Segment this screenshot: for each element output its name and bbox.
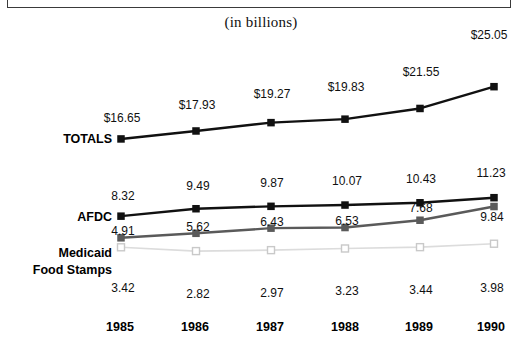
x-axis-label-1989: 1989: [405, 320, 433, 334]
data-point-marker: [341, 115, 349, 123]
x-axis-label-1988: 1988: [331, 320, 359, 334]
data-point-marker: [491, 240, 498, 247]
data-point-marker: [192, 205, 200, 213]
value-label-afdc-1990: 11.23: [476, 166, 505, 180]
value-label-food-stamps-1987: 2.97: [260, 286, 283, 300]
value-label-totals-1989: $21.55: [403, 65, 440, 79]
value-label-afdc-1987: 9.87: [260, 176, 283, 190]
value-label-totals-1986: $17.93: [179, 98, 216, 112]
data-point-marker: [416, 105, 424, 113]
data-point-marker: [193, 248, 200, 255]
value-label-afdc-1988: 10.07: [332, 174, 362, 188]
data-point-marker: [490, 194, 498, 202]
series-label-medicaid: Medicaid: [0, 246, 112, 260]
data-point-marker: [490, 83, 498, 91]
value-label-totals-1990: $25.05: [471, 28, 508, 42]
chart-container: (in billions) TOTALS AFDC Medicaid Food …: [0, 0, 522, 347]
series-label-food-stamps: Food Stamps: [0, 263, 112, 277]
value-label-afdc-1986: 9.49: [186, 179, 209, 193]
value-label-totals-1987: $19.27: [254, 87, 291, 101]
data-point-marker: [417, 244, 424, 251]
data-point-marker: [117, 212, 125, 220]
series-label-afdc: AFDC: [0, 210, 112, 224]
x-axis-label-1987: 1987: [256, 320, 284, 334]
x-axis-label-1985: 1985: [106, 320, 134, 334]
series-medicaid: [117, 203, 498, 242]
series-label-totals: TOTALS: [0, 132, 112, 146]
value-label-food-stamps-1986: 2.82: [186, 287, 209, 301]
value-label-afdc-1985: 8.32: [111, 189, 134, 203]
value-label-medicaid-1985: 4.91: [111, 224, 134, 238]
data-point-marker: [341, 201, 349, 209]
value-label-totals-1985: $16.65: [104, 111, 141, 125]
series-line: [121, 244, 494, 251]
value-label-food-stamps-1990: 3.98: [480, 281, 503, 295]
x-axis-label-1986: 1986: [181, 320, 209, 334]
value-label-food-stamps-1989: 3.44: [409, 283, 432, 297]
data-point-marker: [342, 245, 349, 252]
series-totals: [117, 83, 498, 143]
value-label-medicaid-1988: 6.53: [335, 214, 358, 228]
x-axis-label-1990: 1990: [477, 320, 505, 334]
value-label-medicaid-1987: 6.43: [260, 215, 283, 229]
data-point-marker: [416, 216, 424, 224]
value-label-medicaid-1986: 5.62: [186, 220, 209, 234]
series-line: [121, 198, 494, 216]
series-line: [121, 87, 494, 139]
value-label-food-stamps-1985: 3.42: [111, 281, 134, 295]
series-food-stamps: [118, 240, 498, 254]
value-label-food-stamps-1988: 3.23: [335, 284, 358, 298]
data-point-marker: [267, 119, 275, 127]
data-point-marker: [192, 127, 200, 135]
value-label-totals-1988: $19.83: [328, 80, 365, 94]
value-label-medicaid-1990: 9.84: [480, 210, 503, 224]
value-label-medicaid-1989: 7.68: [409, 201, 432, 215]
value-label-afdc-1989: 10.43: [406, 172, 436, 186]
data-point-marker: [117, 135, 125, 143]
data-point-marker: [267, 203, 275, 211]
data-point-marker: [118, 244, 125, 251]
data-point-marker: [268, 247, 275, 254]
